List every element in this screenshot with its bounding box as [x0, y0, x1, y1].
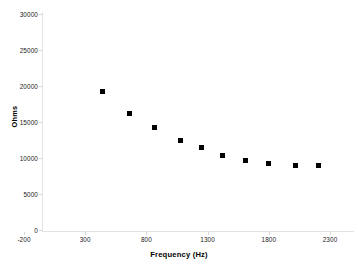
x-tick-mark	[24, 232, 25, 235]
data-point	[100, 89, 105, 94]
data-point	[127, 111, 132, 116]
x-tick-label: 800	[123, 236, 169, 244]
data-point	[293, 163, 298, 168]
x-axis-title: Frequency (Hz)	[0, 250, 358, 259]
data-point	[178, 138, 183, 143]
x-tick-mark	[85, 232, 86, 235]
data-point	[316, 163, 321, 168]
data-point	[220, 153, 225, 158]
data-point	[199, 145, 204, 150]
x-tick-mark	[208, 232, 209, 235]
x-tick-label: 1800	[246, 236, 292, 244]
x-tick-mark	[269, 232, 270, 235]
x-tick-label: 2300	[307, 236, 353, 244]
x-tick-label: 300	[62, 236, 108, 244]
data-point	[266, 161, 271, 166]
chart-figure: 050001000015000200002500030000 -20030080…	[0, 0, 358, 269]
data-point	[152, 125, 157, 130]
x-tick-mark	[146, 232, 147, 235]
x-axis-tick-labels: -200300800130018002300	[0, 0, 358, 269]
data-point	[243, 158, 248, 163]
x-tick-label: 1300	[185, 236, 231, 244]
y-axis-title: Ohms	[10, 87, 19, 147]
x-tick-label: -200	[1, 236, 47, 244]
x-tick-mark	[330, 232, 331, 235]
